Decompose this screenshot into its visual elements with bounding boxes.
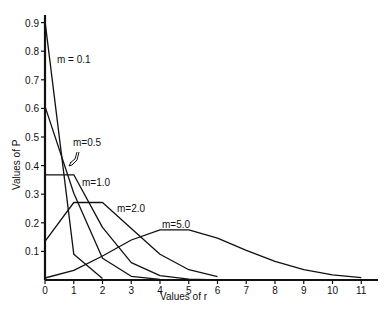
y-tick-label: 0.1 <box>25 246 39 257</box>
x-axis-label: Values of r <box>160 291 208 302</box>
y-tick-label: 0.8 <box>25 46 39 57</box>
y-tick-label: 0.4 <box>25 161 39 172</box>
x-tick-label: 3 <box>128 285 134 296</box>
x-tick-label: 6 <box>215 285 221 296</box>
poisson-chart: 012345678910110.10.20.30.40.50.60.70.80.… <box>0 0 387 317</box>
series-line-m=0.5 <box>45 106 160 279</box>
x-tick-label: 0 <box>42 285 48 296</box>
label-m01: m = 0.1 <box>57 54 91 65</box>
x-tick-label: 8 <box>272 285 278 296</box>
series-lines <box>45 21 361 280</box>
x-tick-label: 7 <box>243 285 249 296</box>
m05-arrow-icon <box>69 152 79 166</box>
y-tick-label: 0.2 <box>25 218 39 229</box>
x-tick-label: 1 <box>71 285 77 296</box>
label-m50: m=5.0 <box>162 219 191 230</box>
y-tick-label: 0.3 <box>25 189 39 200</box>
x-tick-label: 11 <box>356 285 367 296</box>
y-tick-label: 0.6 <box>25 103 39 114</box>
y-tick-label: 0.7 <box>25 75 39 86</box>
y-axis-label: Values of P <box>11 139 22 190</box>
x-tick-label: 2 <box>100 285 106 296</box>
x-tick-label: 9 <box>301 285 307 296</box>
label-m05: m=0.5 <box>73 137 102 148</box>
label-m10: m=1.0 <box>82 177 111 188</box>
y-tick-label: 0.5 <box>25 132 39 143</box>
x-tick-label: 10 <box>327 285 339 296</box>
y-tick-label: 0.9 <box>25 18 39 29</box>
label-m20: m=2.0 <box>117 203 146 214</box>
